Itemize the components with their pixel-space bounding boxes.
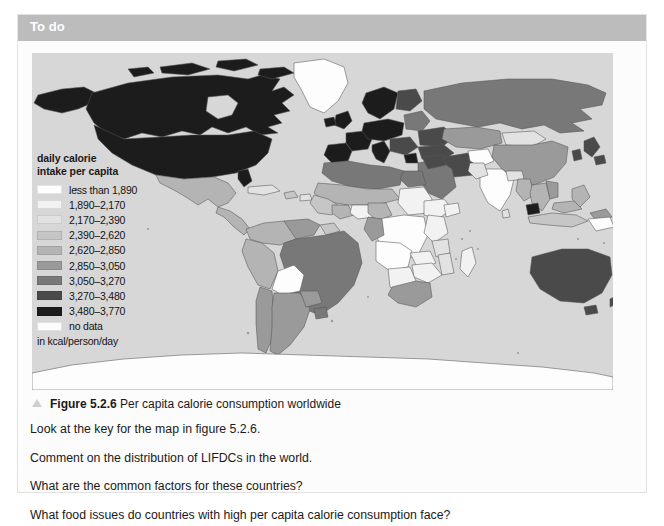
world-map-figure: .ln { fill:none; stroke:#555; stroke-wid… — [32, 53, 613, 390]
legend-label: 2,620–2,850 — [69, 244, 125, 256]
legend-item: 1,890–2,170 — [35, 197, 171, 212]
question-item: Look at the key for the map in figure 5.… — [30, 421, 634, 437]
legend-swatch — [37, 307, 62, 316]
legend-swatch — [37, 231, 62, 240]
question-item: What are the common factors for these co… — [30, 478, 634, 494]
legend-item: less than 1,890 — [35, 182, 171, 197]
legend-title: daily calorie intake per capita — [37, 152, 171, 177]
legend-label: 2,390–2,620 — [69, 229, 125, 241]
legend-item: 2,170–2,390 — [35, 212, 171, 227]
map-legend: daily calorie intake per capita less tha… — [35, 152, 171, 347]
legend-label: 3,050–3,270 — [69, 275, 125, 287]
legend-item: no data — [35, 319, 171, 334]
legend-swatch — [37, 185, 62, 194]
legend-swatch — [37, 261, 62, 270]
legend-swatch — [37, 322, 62, 331]
legend-item: 2,620–2,850 — [35, 243, 171, 258]
to-do-card: To do .ln { fill:none; stroke:#555; stro… — [17, 14, 647, 493]
card-header: To do — [18, 15, 646, 41]
question-list: Look at the key for the map in figure 5.… — [30, 421, 634, 526]
legend-item: 3,270–3,480 — [35, 288, 171, 303]
figure-title: Per capita calorie consumption worldwide — [120, 397, 341, 411]
caption-text-group: Figure 5.2.6 Per capita calorie consumpt… — [50, 397, 341, 411]
legend-title-line2: intake per capita — [37, 165, 118, 177]
legend-swatch — [37, 200, 62, 209]
legend-label: 2,850–3,050 — [69, 260, 125, 272]
question-item: Comment on the distribution of LIFDCs in… — [30, 450, 634, 466]
legend-label: less than 1,890 — [69, 184, 137, 196]
legend-swatch — [37, 291, 62, 300]
legend-item: 3,050–3,270 — [35, 273, 171, 288]
legend-title-line1: daily calorie — [37, 152, 96, 164]
legend-item: 3,480–3,770 — [35, 304, 171, 319]
triangle-bullet-icon — [32, 399, 42, 407]
figure-caption: Figure 5.2.6 Per capita calorie consumpt… — [32, 397, 632, 411]
legend-item: 2,850–3,050 — [35, 258, 171, 273]
question-item: What food issues do countries with high … — [30, 507, 634, 523]
legend-label: 3,270–3,480 — [69, 290, 125, 302]
legend-label: 3,480–3,770 — [69, 305, 125, 317]
legend-swatch — [37, 215, 62, 224]
legend-swatch — [37, 246, 62, 255]
figure-number: Figure 5.2.6 — [50, 397, 117, 411]
legend-item: 2,390–2,620 — [35, 228, 171, 243]
legend-label: 1,890–2,170 — [69, 199, 125, 211]
card-title: To do — [30, 19, 65, 34]
legend-swatch — [37, 276, 62, 285]
legend-units: in kcal/person/day — [37, 335, 171, 347]
card-body: .ln { fill:none; stroke:#555; stroke-wid… — [18, 41, 646, 492]
legend-label: 2,170–2,390 — [69, 214, 125, 226]
legend-label: no data — [69, 320, 103, 332]
